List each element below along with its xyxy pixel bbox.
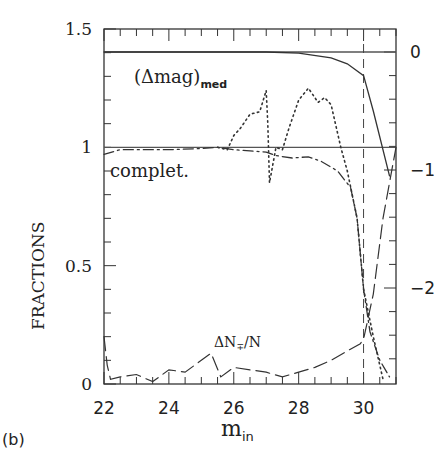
x-tick-label: 28 — [288, 398, 310, 418]
y-tick-label: 0 — [81, 374, 92, 394]
y-tick-label: 1 — [81, 137, 92, 157]
data-series — [104, 52, 396, 382]
right-y-tick-label: −1 — [410, 160, 435, 180]
x-axis-label: min — [221, 416, 254, 444]
x-tick-label: 24 — [158, 398, 180, 418]
panel-label: (b) — [2, 430, 25, 449]
annotation-completeness: complet. — [110, 160, 189, 181]
x-tick-label: 26 — [223, 398, 245, 418]
annotation-dmag-med: (Δmag)med — [134, 66, 227, 91]
x-tick-label: 30 — [353, 398, 375, 418]
y-tick-label: 1.5 — [65, 19, 92, 39]
y-axis-label: FRACTIONS — [28, 222, 48, 330]
chart: 222426283000.511.50−1−2 FRACTIONS min (b… — [0, 0, 447, 456]
annotation-delta-n: ΔN∓/N — [214, 334, 261, 352]
right-y-tick-label: −2 — [410, 278, 435, 298]
series-dotted — [218, 88, 383, 379]
y-tick-label: 0.5 — [65, 256, 92, 276]
right-y-tick-label: 0 — [410, 42, 421, 62]
x-tick-label: 22 — [93, 398, 115, 418]
